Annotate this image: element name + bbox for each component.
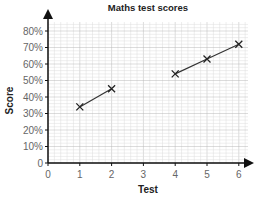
- x-axis-arrow-icon: [244, 158, 254, 168]
- x-tick-label: 2: [109, 169, 115, 180]
- y-tick-label: 40%: [23, 92, 43, 103]
- x-tick-label: 5: [204, 169, 210, 180]
- y-tick-label: 50%: [23, 75, 43, 86]
- x-tick-label: 6: [236, 169, 242, 180]
- y-tick-label: 0: [37, 158, 43, 169]
- x-tick-label: 3: [141, 169, 147, 180]
- y-tick-label: 70%: [23, 42, 43, 53]
- x-tick-label: 0: [45, 169, 51, 180]
- grid: [48, 22, 248, 163]
- y-tick-label: 10%: [23, 141, 43, 152]
- y-axis-arrow-icon: [43, 9, 53, 19]
- line-chart: 010%20%30%40%50%60%70%80%0123456: [0, 0, 256, 200]
- y-tick-label: 80%: [23, 26, 43, 37]
- series-line: [80, 89, 112, 107]
- x-tick-label: 4: [172, 169, 178, 180]
- x-tick-label: 1: [77, 169, 83, 180]
- y-tick-label: 60%: [23, 59, 43, 70]
- y-tick-label: 20%: [23, 125, 43, 136]
- y-tick-label: 30%: [23, 108, 43, 119]
